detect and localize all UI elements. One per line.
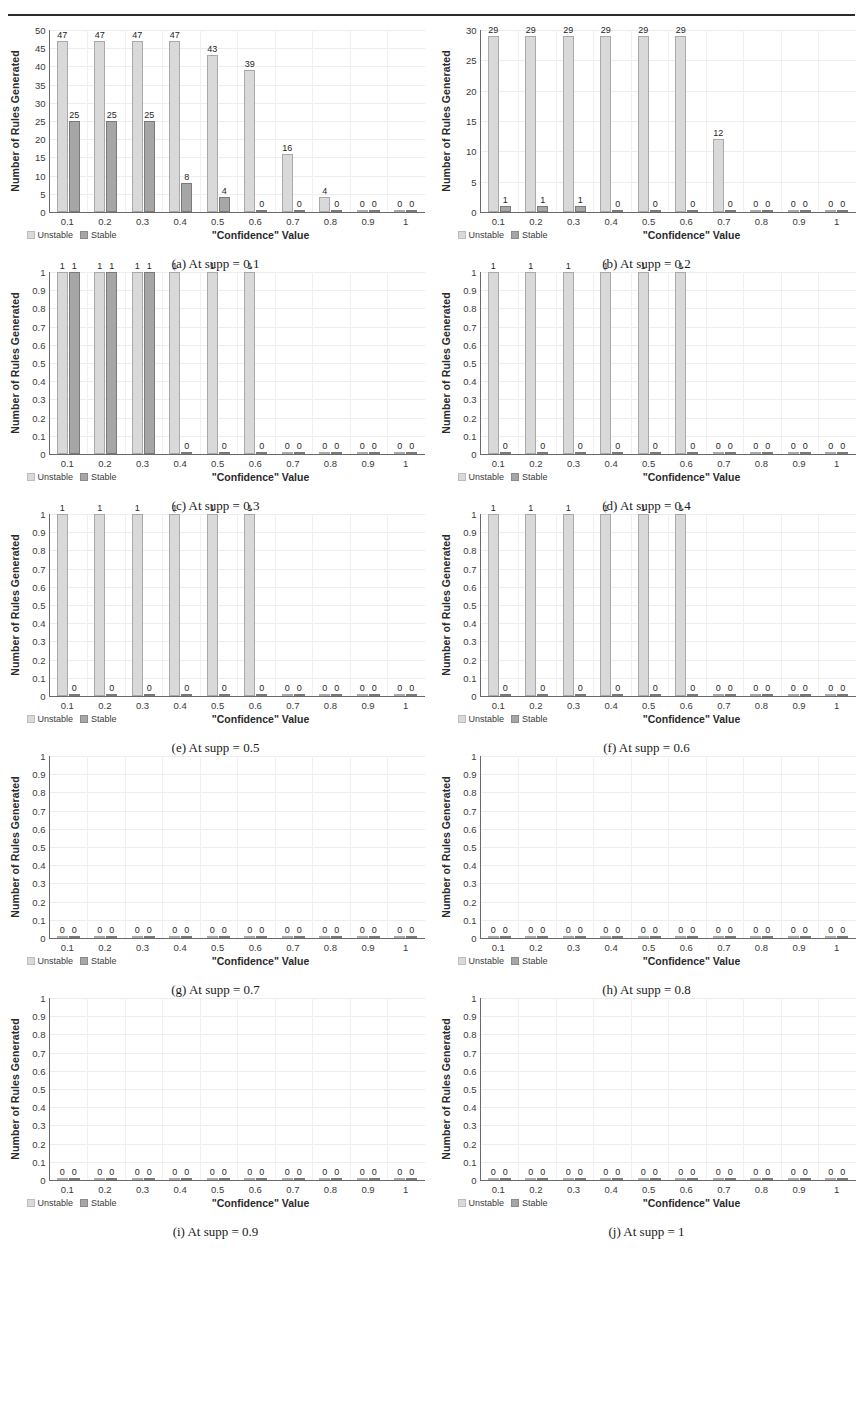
bar-group: 00	[237, 756, 275, 938]
bar-stable: 0	[219, 694, 230, 696]
chart-body: Number of Rules Generated10.90.80.70.60.…	[7, 514, 425, 697]
bar-value-label: 0	[372, 926, 377, 935]
bar-stable: 0	[837, 452, 848, 454]
y-tick-label: 1	[471, 993, 476, 1004]
bar-unstable: 0	[319, 452, 330, 454]
bar-unstable: 0	[788, 694, 799, 696]
figure-cell-i: Number of Rules Generated10.90.80.70.60.…	[0, 998, 431, 1240]
bar-value-label: 0	[690, 684, 695, 693]
y-tick-label: 40	[35, 61, 46, 72]
chart-body: Number of Rules Generated10.90.80.70.60.…	[7, 272, 425, 455]
bar-stable: 0	[219, 452, 230, 454]
bar-stable: 0	[687, 694, 698, 696]
bar-stable: 0	[219, 1178, 230, 1180]
figure-cell-j: Number of Rules Generated10.90.80.70.60.…	[431, 998, 862, 1240]
bar-value-label: 0	[528, 926, 533, 935]
bar-value-label: 0	[791, 1168, 796, 1177]
y-tick-label: 0.1	[32, 914, 45, 925]
x-tick-label: 0.2	[86, 216, 124, 227]
bar-unstable: 0	[638, 936, 649, 938]
bar-group: 00	[781, 998, 819, 1180]
bar-unstable: 29	[638, 36, 649, 212]
bar-stable: 0	[500, 936, 511, 938]
bar-value-label: 1	[97, 504, 102, 513]
bar-group: 00	[312, 272, 350, 454]
x-tick-label: 0.8	[743, 216, 781, 227]
chart-a: Number of Rules Generated504540353025201…	[7, 30, 425, 272]
x-tick-label: 0.3	[124, 1184, 162, 1195]
bar-unstable: 0	[750, 452, 761, 454]
bar-stable: 0	[612, 452, 623, 454]
y-axis-title-text: Number of Rules Generated	[440, 1018, 452, 1159]
bar-group: 00	[781, 756, 819, 938]
bar-stable: 0	[537, 452, 548, 454]
bar-group: 00	[481, 998, 519, 1180]
x-tick-label: 0.6	[667, 216, 705, 227]
figure-cell-b: Number of Rules Generated302520151050291…	[431, 30, 862, 272]
plot-area: 00000000000000000000	[480, 756, 856, 939]
y-tick-label: 0.9	[32, 1011, 45, 1022]
bar-value-label: 0	[72, 684, 77, 693]
figure-caption-i: (i) At supp = 0.9	[7, 1224, 425, 1240]
y-tick-label: 0.8	[32, 545, 45, 556]
bar-value-label: 0	[716, 442, 721, 451]
bar-unstable: 1	[94, 272, 105, 454]
bar-value-label: 1	[172, 262, 177, 271]
bar-group: 00	[743, 30, 781, 212]
bar-group: 10	[87, 514, 125, 696]
bar-value-label: 0	[828, 926, 833, 935]
figure-grid: Number of Rules Generated504540353025201…	[0, 30, 863, 1240]
bar-value-label: 0	[765, 200, 770, 209]
bar-value-label: 1	[172, 504, 177, 513]
bar-value-label: 0	[222, 926, 227, 935]
bar-stable: 0	[406, 936, 417, 938]
x-tick-label: 0.7	[274, 700, 312, 711]
bar-group: 00	[387, 998, 425, 1180]
bar-stable: 0	[687, 210, 698, 212]
figure-row: Number of Rules Generated10.90.80.70.60.…	[0, 272, 863, 514]
bar-stable: 0	[650, 1178, 661, 1180]
x-tick-label: 0.4	[592, 216, 630, 227]
bar-groups: 00000000000000000000	[50, 756, 425, 938]
y-tick-label: 0.1	[32, 1156, 45, 1167]
y-axis-ticks: 10.90.80.70.60.50.40.30.20.10	[23, 272, 49, 454]
bar-unstable: 1	[600, 272, 611, 454]
bar-group: 00	[743, 272, 781, 454]
bar-stable: 1	[69, 272, 80, 454]
bar-unstable: 0	[525, 1178, 536, 1180]
bar-value-label: 1	[566, 262, 571, 271]
bar-stable: 0	[294, 694, 305, 696]
bar-unstable: 0	[600, 936, 611, 938]
bar-unstable: 0	[750, 1178, 761, 1180]
bar-value-label: 0	[690, 442, 695, 451]
x-tick-label: 0.6	[667, 458, 705, 469]
bar-value-label: 1	[247, 504, 252, 513]
bar-value-label: 1	[578, 196, 583, 205]
x-axis-ticks: 0.10.20.30.40.50.60.70.80.91	[480, 700, 856, 711]
bar-stable: 0	[800, 210, 811, 212]
x-axis-ticks: 0.10.20.30.40.50.60.70.80.91	[480, 1184, 856, 1195]
bar-value-label: 0	[259, 1168, 264, 1177]
bar-stable: 0	[537, 694, 548, 696]
bar-stable: 0	[762, 1178, 773, 1180]
x-tick-label: 0.8	[743, 942, 781, 953]
bar-value-label: 0	[603, 1168, 608, 1177]
bar-value-label: 0	[503, 442, 508, 451]
bar-unstable: 0	[675, 1178, 686, 1180]
y-tick-label: 0.2	[32, 1138, 45, 1149]
y-tick-label: 0.4	[32, 618, 45, 629]
bar-stable: 0	[369, 1178, 380, 1180]
bar-value-label: 0	[828, 442, 833, 451]
legend-and-x-title: UnstableStable"Confidence" Value	[23, 714, 425, 728]
bar-unstable: 0	[169, 1178, 180, 1180]
x-axis-ticks: 0.10.20.30.40.50.60.70.80.91	[49, 942, 425, 953]
bar-group: 00	[350, 998, 388, 1180]
x-tick-label: 1	[818, 458, 856, 469]
y-tick-label: 0	[471, 207, 476, 218]
y-tick-label: 0.3	[32, 394, 45, 405]
plot-area: 00000000000000000000	[480, 998, 856, 1181]
bar-value-label: 0	[259, 442, 264, 451]
bar-value-label: 1	[641, 504, 646, 513]
bar-value-label: 1	[210, 504, 215, 513]
bar-group: 00	[818, 998, 856, 1180]
